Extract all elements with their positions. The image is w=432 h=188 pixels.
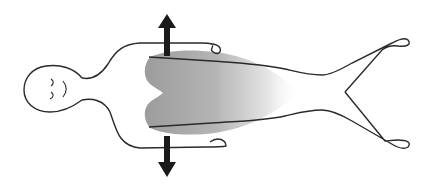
face [50, 79, 66, 99]
left-eye-icon [51, 79, 53, 86]
arrow-down-icon [158, 136, 176, 177]
right-eye-icon [63, 81, 66, 97]
head-outline [24, 66, 82, 113]
body-diagram [0, 0, 432, 188]
arrow-up-icon [158, 14, 176, 56]
mouth-icon [50, 92, 53, 99]
